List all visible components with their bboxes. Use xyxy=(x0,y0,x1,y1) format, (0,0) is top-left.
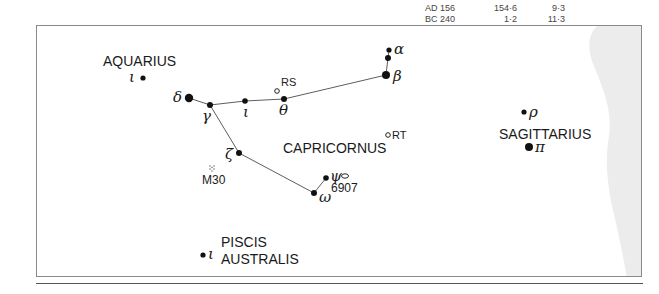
star-chart: ιδγιθαβζψωρπι RS RT M30 6907 AQUARIUS CA… xyxy=(36,25,642,277)
divider xyxy=(36,283,643,284)
table-cell-epoch: BC 240 xyxy=(425,14,465,24)
constellation-line xyxy=(210,101,245,105)
star-chart-canvas: ιδγιθαβζψωρπι RS RT M30 6907 AQUARIUS CA… xyxy=(37,26,642,277)
milky-way-band xyxy=(589,26,642,277)
table-row: BC 240 1·2 11·3 xyxy=(425,14,585,25)
constellation-line xyxy=(284,75,386,99)
m30-label: M30 xyxy=(202,173,226,187)
constellation-line xyxy=(239,153,314,193)
data-table-fragment: AD 156 154·6 9·3 BC 240 1·2 11·3 xyxy=(425,3,585,25)
table-row: AD 156 154·6 9·3 xyxy=(425,3,585,14)
galaxy-icon xyxy=(342,174,349,178)
star-label-cap-iota: ι xyxy=(243,103,249,121)
star-label-cap-zeta: ζ xyxy=(225,145,234,163)
star-icon-aqr-iota xyxy=(140,75,145,80)
table-cell-value2: 9·3 xyxy=(525,3,565,13)
star-label-cap-gamma: γ xyxy=(202,107,211,125)
variable-star-rt-label: RT xyxy=(392,129,407,141)
star-icon-cap-delta xyxy=(185,94,193,102)
star-label-psa-iota: ι xyxy=(208,245,214,263)
table-cell-value1: 154·6 xyxy=(477,3,517,13)
star-icon-psa-iota xyxy=(200,252,205,257)
star-icon-cap-alpha1 xyxy=(386,47,391,52)
variable-star-rs-label: RS xyxy=(281,76,296,88)
constellation-label-sagittarius: SAGITTARIUS xyxy=(499,126,591,142)
constellation-label-capricornus: CAPRICORNUS xyxy=(283,140,386,156)
star-label-cap-theta: θ xyxy=(279,101,288,119)
globular-cluster-icon xyxy=(209,165,214,171)
ngc-6907-label: 6907 xyxy=(331,181,358,195)
table-cell-value2: 11·3 xyxy=(525,14,565,24)
star-label-cap-omega: ω xyxy=(319,188,331,206)
star-icon-cap-alpha2 xyxy=(385,55,391,61)
star-icon-sgr-pi xyxy=(525,143,533,151)
star-icon-cap-omega xyxy=(311,190,317,196)
table-cell-epoch: AD 156 xyxy=(425,3,465,13)
star-icon-cap-psi xyxy=(323,175,329,181)
star-icon-cap-zeta xyxy=(236,150,242,156)
constellation-label-piscis: PISCIS xyxy=(221,234,267,250)
constellation-label-aquarius: AQUARIUS xyxy=(103,53,176,69)
star-icon-cap-beta xyxy=(382,71,390,79)
star-label-cap-alpha1: α xyxy=(394,40,404,58)
star-icon-sgr-rho xyxy=(521,109,526,114)
variable-star-rt-icon xyxy=(386,133,391,138)
star-label-sgr-rho: ρ xyxy=(528,103,538,121)
constellation-lines xyxy=(189,50,389,193)
variable-star-rs-icon xyxy=(275,89,280,94)
constellation-label-australis: AUSTRALIS xyxy=(221,251,299,267)
star-label-cap-beta: β xyxy=(392,67,402,85)
star-label-cap-delta: δ xyxy=(173,88,182,106)
table-cell-value1: 1·2 xyxy=(477,14,517,24)
star-label-aqr-iota: ι xyxy=(129,68,135,86)
